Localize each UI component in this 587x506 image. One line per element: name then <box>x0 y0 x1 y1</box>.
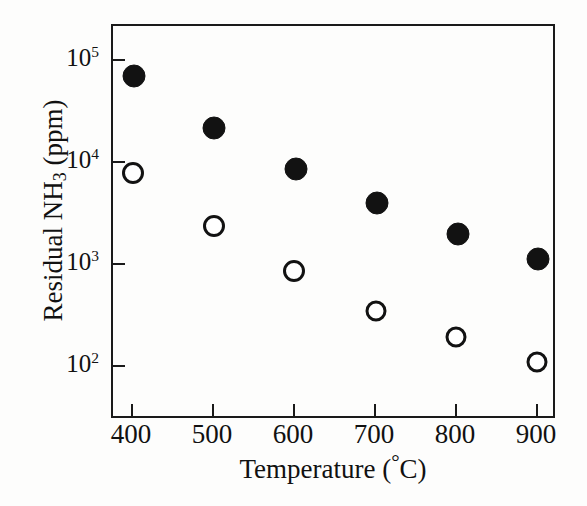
x-axis-tick-label: 600 <box>248 421 338 448</box>
y-tick-exponent: 3 <box>91 247 99 264</box>
x-axis-tick <box>293 404 295 418</box>
x-axis-tick-label: 500 <box>167 421 257 448</box>
x-axis-title-tail: C) <box>400 454 427 484</box>
x-axis-tick-label: 900 <box>491 421 581 448</box>
y-tick-exponent: 4 <box>91 145 99 162</box>
x-axis-tick <box>455 404 457 418</box>
degree-symbol: ° <box>391 450 399 474</box>
y-tick-exponent: 5 <box>91 43 99 60</box>
y-axis-title-subscript: 3 <box>50 172 70 181</box>
y-tick-mantissa: 10 <box>66 146 91 173</box>
y-axis-title: Residual NH3 (ppm) <box>40 1 67 421</box>
y-tick-exponent: 2 <box>91 349 99 366</box>
plot-area-frame <box>111 24 555 418</box>
x-axis-tick <box>536 404 538 418</box>
x-axis-tick <box>212 404 214 418</box>
x-axis-tick <box>374 404 376 418</box>
y-axis-title-main: Residual NH <box>38 181 68 321</box>
y-axis-tick <box>111 161 125 163</box>
x-axis-tick <box>131 404 133 418</box>
x-axis-title-main: Temperature ( <box>239 454 391 484</box>
x-axis-tick-label: 800 <box>410 421 500 448</box>
y-axis-tick <box>111 59 125 61</box>
y-tick-mantissa: 10 <box>66 350 91 377</box>
y-tick-mantissa: 10 <box>66 248 91 275</box>
chart-figure: 105104103102 400500600700800900 Temperat… <box>0 0 587 506</box>
x-axis-tick-label: 700 <box>329 421 419 448</box>
x-axis-title: Temperature (°C) <box>111 456 555 483</box>
y-axis-tick <box>111 263 125 265</box>
y-axis-title-tail: (ppm) <box>38 100 68 173</box>
y-axis-tick <box>111 365 125 367</box>
x-axis-tick-label: 400 <box>86 421 176 448</box>
y-tick-mantissa: 10 <box>66 44 91 71</box>
